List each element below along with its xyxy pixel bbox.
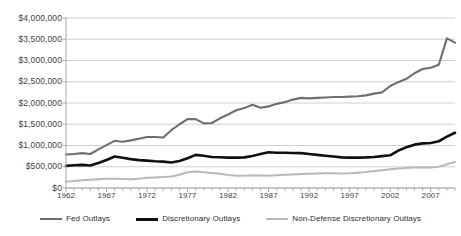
x-tick-label: 1962	[57, 191, 75, 201]
x-tick-label: 1987	[259, 191, 277, 201]
y-tick-label: $500,000	[0, 162, 62, 171]
axis-lines	[66, 18, 455, 188]
y-tick-label: $2,500,000	[0, 77, 62, 86]
x-tick-label: 1997	[341, 191, 359, 201]
x-axis: 1962196719721977198219871992199720022007	[66, 191, 455, 205]
legend-label: Non-Defense Discretionary Outlays	[292, 214, 421, 224]
x-tick-label: 1967	[97, 191, 115, 201]
legend-item[interactable]: Non-Defense Discretionary Outlays	[266, 214, 421, 224]
legend-swatch-icon	[40, 218, 62, 220]
y-tick-label: $3,000,000	[0, 56, 62, 65]
x-tick-label: 2002	[381, 191, 399, 201]
legend-item[interactable]: Fed Outlays	[40, 214, 110, 224]
y-tick-label: $3,500,000	[0, 35, 62, 44]
x-tick-label: 2007	[422, 191, 440, 201]
y-tick-label: $1,000,000	[0, 141, 62, 150]
y-tick-label: $1,500,000	[0, 120, 62, 129]
x-tick-label: 1992	[300, 191, 318, 201]
plot-area	[66, 18, 455, 188]
x-tick-label: 1972	[138, 191, 156, 201]
chart-container: $4,000,000$3,500,000$3,000,000$2,500,000…	[0, 0, 461, 236]
legend-swatch-icon	[136, 218, 158, 221]
legend-label: Fed Outlays	[66, 214, 110, 224]
legend-label: Discretionary Outlays	[162, 214, 240, 224]
legend-swatch-icon	[266, 218, 288, 220]
y-axis: $4,000,000$3,500,000$3,000,000$2,500,000…	[0, 0, 62, 236]
y-tick-label: $4,000,000	[0, 14, 62, 23]
y-tick-label: $0	[0, 184, 62, 193]
chart-legend: Fed OutlaysDiscretionary OutlaysNon-Defe…	[0, 210, 461, 228]
legend-item[interactable]: Discretionary Outlays	[136, 214, 240, 224]
y-tick-label: $2,000,000	[0, 99, 62, 108]
x-tick-label: 1977	[178, 191, 196, 201]
x-tick-label: 1982	[219, 191, 237, 201]
